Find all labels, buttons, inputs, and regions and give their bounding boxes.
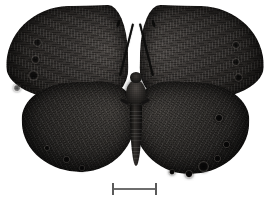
scale-bar-cap-left [112, 183, 114, 195]
scale-bar-line [112, 188, 157, 190]
head [130, 72, 142, 83]
butterfly-specimen [0, 0, 269, 208]
abdomen [130, 100, 142, 166]
specimen-plate [0, 0, 269, 208]
scale-bar [112, 183, 157, 195]
hindwing-left [20, 80, 137, 174]
scale-bar-cap-right [155, 183, 157, 195]
hindwing-right [131, 80, 250, 176]
